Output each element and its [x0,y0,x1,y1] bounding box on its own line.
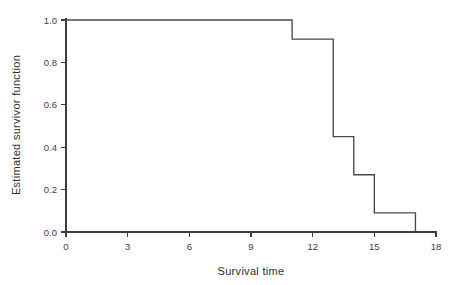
x-tick-label-18: 18 [431,241,442,252]
survivor-step-curve [66,20,415,232]
survival-plot-figure: 0.0 0.2 0.4 0.6 0.8 1.0 0 3 6 9 12 15 18 [0,0,465,285]
y-tick-label-5: 1.0 [44,15,57,26]
x-tick-label-3: 3 [125,241,130,252]
y-tick-label-1: 0.2 [44,184,57,195]
x-tick-label-9: 9 [248,241,253,252]
y-axis-title: Estimated survivor function [10,55,22,195]
y-tick-label-2: 0.4 [44,142,57,153]
x-tick-label-6: 6 [187,241,192,252]
x-tick-label-12: 12 [307,241,318,252]
x-tick-marks [66,232,436,237]
y-tick-marks [61,20,66,232]
y-tick-label-0: 0.0 [44,227,57,238]
y-tick-label-3: 0.6 [44,99,57,110]
y-tick-label-4: 0.8 [44,57,57,68]
x-tick-label-0: 0 [63,241,68,252]
x-tick-labels: 0 3 6 9 12 15 18 [63,241,441,252]
plot-canvas: 0.0 0.2 0.4 0.6 0.8 1.0 0 3 6 9 12 15 18 [0,0,465,285]
x-axis-title: Survival time [218,265,285,277]
x-tick-label-15: 15 [369,241,380,252]
y-tick-labels: 0.0 0.2 0.4 0.6 0.8 1.0 [44,15,57,238]
